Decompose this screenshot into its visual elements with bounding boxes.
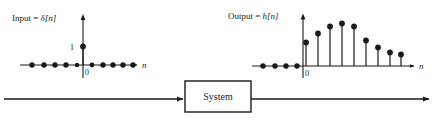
- left-plot-caption-symbol: δ[n]: [41, 13, 57, 23]
- right-plot-sample: [327, 24, 333, 30]
- signal-flow-group: System: [4, 81, 429, 112]
- right-plot-sample: [387, 50, 393, 56]
- figure-canvas: Input = δ[n] n 0 1 Output = h[n]: [0, 0, 437, 130]
- left-plot-sample: [75, 63, 79, 67]
- right-plot-sample: [315, 31, 321, 37]
- left-plot-sample: [120, 62, 125, 67]
- system-block-label: System: [203, 91, 233, 102]
- right-plot-sample: [398, 52, 404, 58]
- right-plot-caption: Output = h[n]: [228, 11, 279, 21]
- right-plot-sample: [351, 24, 357, 30]
- left-plot-origin-label: 0: [85, 68, 89, 77]
- left-plot-amplitude-label: 1: [70, 43, 74, 52]
- right-plot-sample: [363, 38, 369, 44]
- left-plot-sample: [110, 62, 115, 67]
- right-plot-sample: [283, 63, 288, 68]
- right-plot-origin-label: 0: [305, 69, 309, 78]
- left-plot-sample-n0: [80, 44, 86, 50]
- left-plot-x-axis-label: n: [142, 60, 147, 70]
- right-plot-caption-symbol: h[n]: [263, 11, 280, 21]
- left-plot-group: Input = δ[n] n 0 1: [12, 13, 147, 78]
- right-plot-sample: [260, 63, 265, 68]
- right-plot-group: Output = h[n] n 0: [228, 11, 424, 78]
- right-plot-sample: [294, 63, 299, 68]
- left-plot-caption: Input = δ[n]: [12, 13, 57, 23]
- right-plot-sample: [272, 63, 277, 68]
- right-plot-sample: [375, 45, 381, 51]
- left-plot-sample: [90, 63, 95, 68]
- right-plot-y-axis-arrowhead: [301, 14, 306, 20]
- left-plot-sample: [130, 62, 135, 67]
- right-plot-sample: [339, 21, 345, 27]
- right-plot-stems: [303, 21, 404, 66]
- left-plot-sample: [52, 62, 57, 67]
- right-plot-x-axis-label: n: [419, 61, 424, 71]
- left-plot-sample: [29, 62, 34, 67]
- left-plot-sample: [63, 62, 68, 67]
- left-plot-y-axis-arrowhead: [81, 14, 86, 20]
- left-plot-sample: [41, 62, 46, 67]
- right-plot-sample: [303, 40, 309, 46]
- left-plot-sample: [100, 62, 105, 67]
